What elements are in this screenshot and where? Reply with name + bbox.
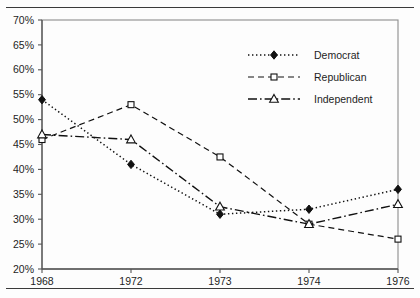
- chart-legend: DemocratRepublicanIndependent: [248, 49, 372, 105]
- marker-filled-diamond: [39, 95, 46, 103]
- marker-filled-diamond: [271, 51, 278, 59]
- x-tick-label: 1972: [119, 275, 143, 287]
- y-tick-label: 45%: [13, 138, 34, 150]
- y-tick-label: 40%: [13, 163, 34, 175]
- x-tick-label: 1973: [208, 275, 232, 287]
- x-tick-label: 1976: [386, 275, 410, 287]
- y-tick-label: 70%: [13, 14, 34, 26]
- y-tick-label: 60%: [13, 63, 34, 75]
- legend-item-independent: Independent: [248, 93, 372, 105]
- x-axis-ticks: 19681972197319741976: [30, 269, 410, 287]
- y-tick-label: 20%: [13, 263, 34, 275]
- legend-item-democrat: Democrat: [248, 49, 360, 61]
- line-chart: 20%25%30%35%40%45%50%55%60%65%70% 196819…: [0, 0, 420, 298]
- chart-figure: 20%25%30%35%40%45%50%55%60%65%70% 196819…: [0, 0, 420, 298]
- marker-open-square: [217, 154, 223, 160]
- marker-filled-diamond: [306, 205, 313, 213]
- marker-filled-diamond: [128, 160, 135, 168]
- series-republican: [39, 102, 401, 242]
- marker-open-triangle: [216, 202, 225, 210]
- marker-open-square: [395, 236, 401, 242]
- y-tick-label: 25%: [13, 238, 34, 250]
- legend-label-republican: Republican: [314, 71, 367, 83]
- marker-filled-diamond: [217, 210, 224, 218]
- marker-open-triangle: [394, 200, 403, 208]
- marker-open-triangle: [38, 130, 47, 138]
- legend-label-democrat: Democrat: [314, 49, 360, 61]
- y-tick-label: 50%: [13, 113, 34, 125]
- y-tick-label: 55%: [13, 88, 34, 100]
- legend-item-republican: Republican: [248, 71, 367, 83]
- legend-label-independent: Independent: [314, 93, 372, 105]
- marker-open-square: [271, 74, 277, 80]
- marker-filled-diamond: [395, 185, 402, 193]
- data-series-group: [38, 95, 403, 242]
- marker-open-square: [128, 102, 134, 108]
- y-tick-label: 65%: [13, 39, 34, 51]
- y-tick-label: 35%: [13, 188, 34, 200]
- y-axis-ticks: 20%25%30%35%40%45%50%55%60%65%70%: [13, 14, 42, 275]
- x-tick-label: 1968: [30, 275, 54, 287]
- x-tick-label: 1974: [297, 275, 321, 287]
- y-tick-label: 30%: [13, 213, 34, 225]
